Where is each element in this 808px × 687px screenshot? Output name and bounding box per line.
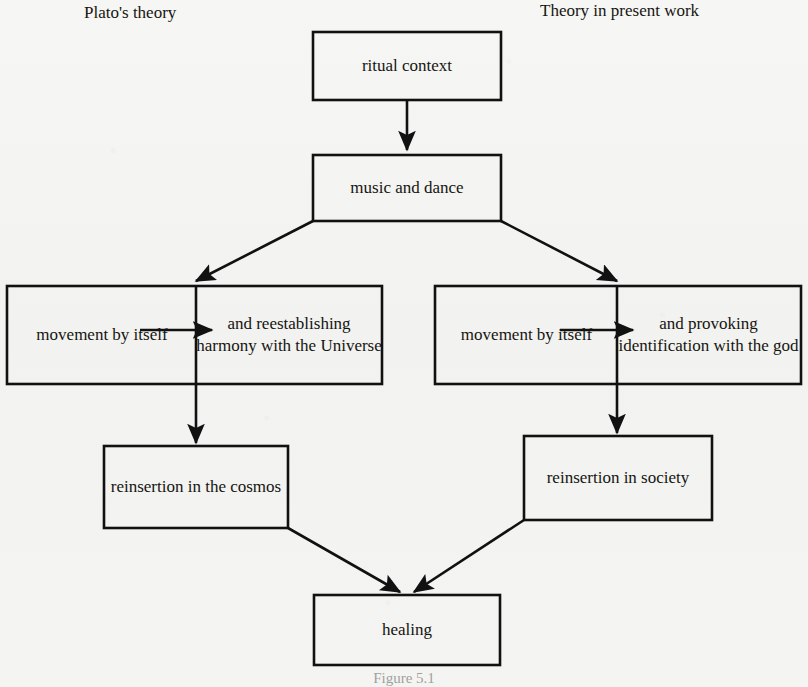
node-box-reinsertion-society — [524, 436, 712, 520]
edge-society-to-healing — [414, 520, 524, 592]
node-box-music-and-dance — [313, 155, 501, 221]
edge-cosmos-to-healing — [288, 528, 400, 592]
node-box-healing — [314, 595, 500, 665]
node-box-reinsertion-cosmos — [104, 446, 288, 528]
node-box-movement-left — [7, 286, 382, 384]
edge-music-to-harmony — [196, 221, 313, 281]
figure-caption: Figure 5.1 — [0, 670, 808, 687]
edge-music-to-provoking — [501, 221, 617, 281]
node-box-ritual-context — [313, 32, 501, 100]
